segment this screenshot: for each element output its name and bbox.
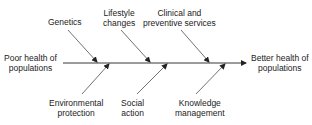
cause-clinical-line-1: Clinical and	[143, 8, 216, 18]
cause-social-line-2: action	[121, 108, 144, 118]
cause-social: Social action	[121, 98, 144, 118]
cause-social-line-1: Social	[121, 98, 144, 108]
knowledge-arrow	[196, 64, 225, 94]
cause-genetics: Genetics	[48, 17, 82, 27]
outcome-label: Better health of populations	[251, 53, 309, 73]
cause-knowledge-line-1: Knowledge	[175, 98, 225, 108]
problem-label: Poor health of populations	[4, 53, 57, 73]
cause-knowledge-line-2: management	[175, 108, 225, 118]
cause-knowledge: Knowledge management	[175, 98, 225, 118]
social-arrow	[137, 64, 167, 94]
environmental-arrow	[82, 64, 109, 94]
cause-lifestyle: Lifestyle changes	[103, 8, 135, 28]
cause-clinical-line-2: preventive services	[143, 18, 216, 28]
clinical-arrow	[181, 30, 209, 62]
cause-environmental-line-1: Environmental	[49, 98, 103, 108]
cause-environmental: Environmental protection	[49, 98, 103, 118]
cause-genetics-line-1: Genetics	[48, 17, 82, 27]
outcome-line-2: populations	[251, 63, 309, 73]
genetics-arrow	[68, 30, 97, 62]
outcome-line-1: Better health of	[251, 53, 309, 63]
problem-line-1: Poor health of	[4, 53, 57, 63]
cause-lifestyle-line-1: Lifestyle	[103, 8, 135, 18]
cause-lifestyle-line-2: changes	[103, 18, 135, 28]
lifestyle-arrow	[121, 30, 150, 62]
problem-line-2: populations	[4, 63, 57, 73]
cause-environmental-line-2: protection	[49, 108, 103, 118]
cause-clinical: Clinical and preventive services	[143, 8, 216, 28]
